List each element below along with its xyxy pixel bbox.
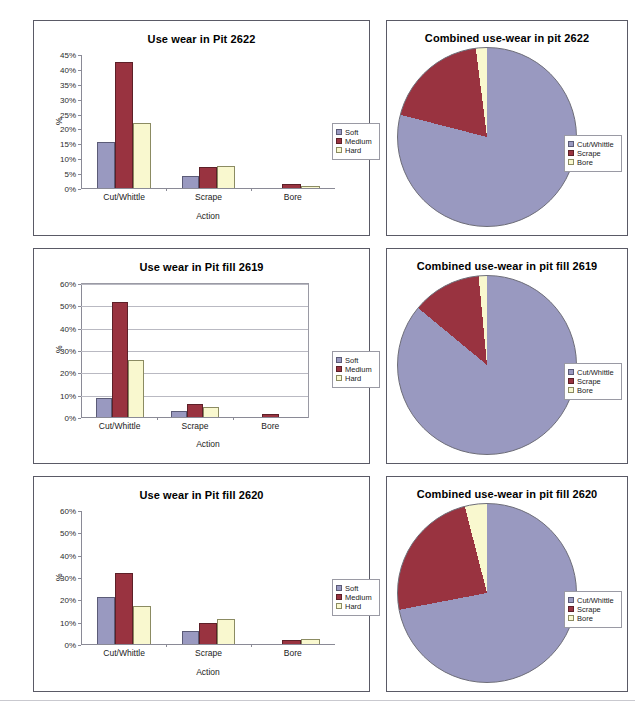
pie-wrap	[397, 47, 577, 227]
footer-divider	[0, 700, 635, 701]
chart-title: Combined use-wear in pit fill 2620	[387, 488, 627, 500]
x-tick-mark	[251, 188, 252, 191]
bar[interactable]	[187, 404, 203, 417]
y-tick-label: 0%	[64, 414, 76, 423]
bar[interactable]	[203, 407, 219, 417]
y-tick-label: 10%	[60, 618, 76, 627]
y-tick-mark	[78, 284, 81, 285]
bar[interactable]	[199, 167, 217, 188]
bar[interactable]	[115, 62, 133, 188]
legend-item[interactable]: Hard	[336, 603, 375, 611]
x-tick-label: Scrape	[195, 648, 222, 658]
bar[interactable]	[171, 411, 187, 417]
bar[interactable]	[133, 123, 151, 188]
legend-item[interactable]: Bore	[568, 615, 617, 623]
bars	[97, 511, 151, 644]
bar[interactable]	[199, 623, 217, 644]
legend-item[interactable]: Hard	[336, 375, 375, 383]
legend-item[interactable]: Soft	[336, 585, 375, 593]
legend-label: Soft	[345, 585, 358, 593]
bar-groups: Cut/WhittleScrapeBore	[82, 55, 335, 188]
bar[interactable]	[115, 573, 133, 644]
bar-group: Cut/Whittle	[82, 55, 166, 188]
bar[interactable]	[112, 302, 128, 417]
legend-item[interactable]: Medium	[336, 138, 375, 146]
legend-label: Scrape	[577, 378, 601, 386]
legend-swatch-icon	[568, 606, 574, 612]
legend-item[interactable]: Scrape	[568, 606, 617, 614]
chart-title: Combined use-wear in pit fill 2619	[387, 260, 627, 272]
y-tick-mark	[78, 396, 81, 397]
bar[interactable]	[182, 176, 200, 188]
legend-label: Medium	[345, 366, 372, 374]
legend-item[interactable]: Soft	[336, 129, 375, 137]
y-tick-label: 10%	[60, 155, 76, 164]
legend-item[interactable]: Medium	[336, 594, 375, 602]
bars	[97, 55, 151, 188]
legend-item[interactable]: Cut/Whittle	[568, 369, 617, 377]
bar[interactable]	[282, 640, 301, 644]
bar-legend: SoftMediumHard	[332, 579, 380, 616]
bar[interactable]	[182, 631, 200, 644]
pie-legend: Cut/WhittleScrapeBore	[564, 591, 622, 628]
y-tick-mark	[78, 115, 81, 116]
legend-label: Bore	[577, 615, 593, 623]
legend-item[interactable]: Medium	[336, 366, 375, 374]
y-tick-label: 60%	[60, 280, 76, 289]
y-tick-mark	[78, 578, 81, 579]
legend-swatch-icon	[336, 138, 342, 144]
y-tick-label: 30%	[60, 574, 76, 583]
bar-group: Scrape	[166, 55, 250, 188]
x-tick-label: Scrape	[182, 421, 209, 431]
x-tick-mark	[157, 417, 158, 420]
bar[interactable]	[217, 166, 235, 188]
bar[interactable]	[262, 414, 279, 417]
bar[interactable]	[96, 398, 112, 417]
x-tick-mark	[166, 188, 167, 191]
y-tick-mark	[78, 418, 81, 419]
bar[interactable]	[301, 186, 320, 188]
y-tick-mark	[78, 70, 81, 71]
legend-swatch-icon	[568, 387, 574, 393]
legend-item[interactable]: Scrape	[568, 378, 617, 386]
legend-swatch-icon	[568, 141, 574, 147]
bar[interactable]	[97, 142, 115, 188]
y-tick-label: 20%	[60, 369, 76, 378]
pie-legend: Cut/WhittleScrapeBore	[564, 363, 622, 400]
chart-title: Combined use-wear in pit 2622	[387, 32, 627, 44]
legend-label: Hard	[345, 147, 361, 155]
legend-label: Scrape	[577, 606, 601, 614]
bar-group: Scrape	[166, 511, 250, 644]
legend-item[interactable]: Cut/Whittle	[568, 141, 617, 149]
bar-group: Bore	[251, 55, 335, 188]
bar[interactable]	[217, 619, 235, 644]
y-tick-mark	[78, 144, 81, 145]
legend-item[interactable]: Soft	[336, 357, 375, 365]
legend-label: Cut/Whittle	[577, 369, 614, 377]
panel-bar-2620: Use wear in Pit fill 2620 % 0%10%20%30%4…	[33, 476, 370, 692]
x-axis-line	[81, 188, 335, 189]
legend-label: Medium	[345, 138, 372, 146]
x-axis-line	[81, 644, 335, 645]
legend-item[interactable]: Bore	[568, 159, 617, 167]
x-tick-label: Bore	[261, 421, 279, 431]
pie-chart	[397, 47, 577, 227]
y-tick-label: 40%	[60, 65, 76, 74]
legend-item[interactable]: Hard	[336, 147, 375, 155]
legend-item[interactable]: Cut/Whittle	[568, 597, 617, 605]
x-axis-title: Action	[81, 667, 335, 677]
legend-item[interactable]: Bore	[568, 387, 617, 395]
bar[interactable]	[301, 639, 320, 644]
legend-swatch-icon	[336, 594, 342, 600]
legend-item[interactable]: Scrape	[568, 150, 617, 158]
chart-title: Use wear in Pit 2622	[34, 33, 369, 45]
bar[interactable]	[282, 184, 301, 188]
y-tick-label: 60%	[60, 507, 76, 516]
y-tick-mark	[78, 351, 81, 352]
y-tick-mark	[78, 556, 81, 557]
bar[interactable]	[128, 360, 144, 417]
y-tick-mark	[78, 600, 81, 601]
bar[interactable]	[97, 597, 115, 644]
charts-sheet: Use wear in Pit 2622 % 0%5%10%15%20%25%3…	[0, 0, 635, 708]
bar[interactable]	[133, 606, 151, 644]
